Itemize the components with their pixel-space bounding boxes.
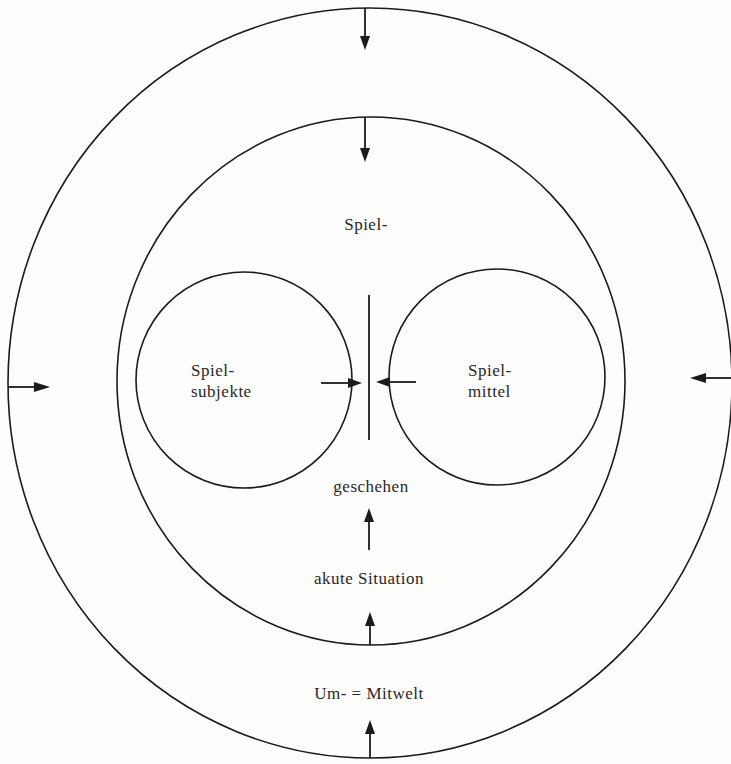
label-spielsubjekte-line2: subjekte <box>191 382 252 402</box>
inner-circle <box>117 117 625 645</box>
label-spielmittel-line2: mittel <box>468 382 511 402</box>
arrow-right-icon <box>8 382 50 392</box>
arrow-left-icon <box>376 377 416 387</box>
label-spielsubjekte-line1: Spiel- <box>191 361 235 381</box>
label-spielmittel-line1: Spiel- <box>468 361 512 381</box>
arrow-down-icon <box>360 8 370 50</box>
label-geschehen: geschehen <box>333 477 408 497</box>
arrow-left-icon <box>690 373 731 383</box>
label-umwelt-mitwelt: Um- = Mitwelt <box>314 684 424 704</box>
label-akute-situation: akute Situation <box>314 569 424 589</box>
left-circle-spielsubjekte <box>136 272 352 488</box>
arrow-down-icon <box>360 117 370 162</box>
arrow-up-icon <box>364 508 374 550</box>
arrow-right-icon <box>321 378 362 388</box>
play-situation-diagram <box>0 0 731 764</box>
arrow-up-icon <box>365 720 375 758</box>
label-spiel-prefix: Spiel- <box>344 215 388 235</box>
arrow-up-icon <box>365 612 375 645</box>
